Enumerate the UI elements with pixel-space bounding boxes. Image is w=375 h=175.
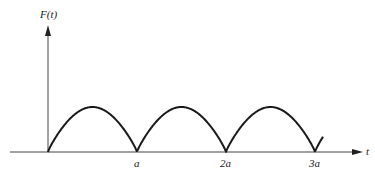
y-axis-arrow-icon xyxy=(45,25,51,36)
tick-label-3a: 3a xyxy=(309,158,320,169)
y-axis-label: F(t) xyxy=(40,9,57,20)
rectified-sine-curve xyxy=(48,107,323,152)
figure-canvas: F(t) t a 2a 3a xyxy=(0,0,375,175)
rectified-sine-plot xyxy=(0,0,375,175)
tick-label-2a: 2a xyxy=(220,158,231,169)
x-axis-label: t xyxy=(366,146,369,157)
tick-label-a: a xyxy=(134,158,140,169)
x-axis-arrow-icon xyxy=(352,149,363,155)
